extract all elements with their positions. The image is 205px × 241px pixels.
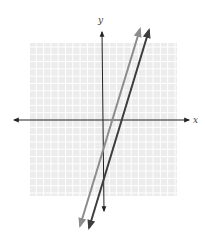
chart: x y (0, 0, 205, 241)
y-axis-label: y (97, 15, 104, 25)
x-axis-label: x (193, 115, 198, 125)
